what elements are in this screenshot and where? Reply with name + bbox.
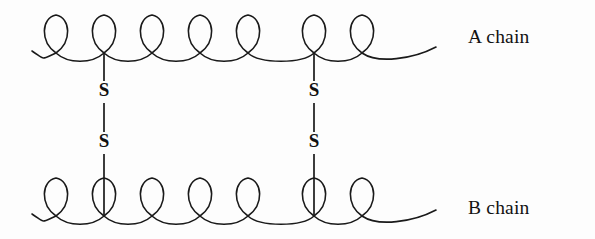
b-chain-coil [32, 178, 436, 224]
bond-left-lower-sulfur-label: S [99, 130, 110, 151]
chains-group [32, 15, 436, 224]
disulfide-bonds-group: SSSS [99, 53, 320, 216]
insulin-chain-diagram: SSSS A chain B chain [0, 0, 595, 239]
bond-left: SS [99, 53, 110, 216]
b-chain-label: B chain [468, 197, 530, 219]
bond-right-lower-sulfur-label: S [309, 130, 320, 151]
a-chain-label: A chain [468, 26, 530, 48]
a-chain-coil [32, 15, 436, 61]
bond-right: SS [309, 53, 320, 216]
bond-right-upper-sulfur-label: S [309, 79, 320, 100]
bond-left-upper-sulfur-label: S [99, 79, 110, 100]
